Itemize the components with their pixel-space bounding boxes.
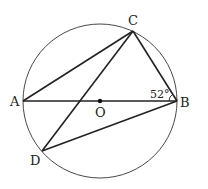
chord-cd — [42, 31, 133, 151]
center-dot-o — [98, 99, 102, 103]
angle-arc-b — [169, 94, 173, 101]
chord-bd — [42, 101, 177, 151]
geometry-diagram: A B C D O 52° — [0, 0, 208, 189]
label-b: B — [180, 95, 190, 110]
label-o: O — [95, 105, 106, 120]
label-c: C — [128, 13, 138, 28]
label-d: D — [30, 153, 40, 168]
angle-label-b: 52° — [150, 88, 170, 101]
label-a: A — [9, 94, 20, 109]
chord-ac — [23, 31, 133, 101]
